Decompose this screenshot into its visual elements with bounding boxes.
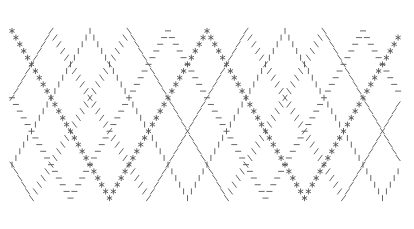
scatter-plot-figure xyxy=(0,0,414,229)
plot-canvas xyxy=(0,0,414,229)
